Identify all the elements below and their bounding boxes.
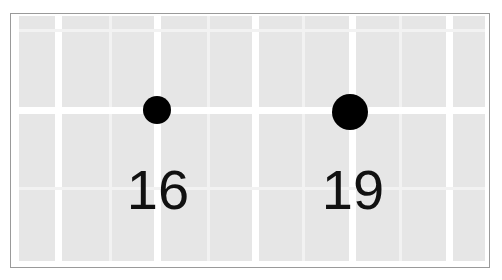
grid-major-h	[19, 107, 485, 114]
grid-major-v	[55, 16, 62, 261]
grid-minor-v	[399, 16, 402, 261]
grid-minor-h	[19, 187, 485, 190]
grid-major-v	[154, 16, 161, 261]
grid-major-v	[446, 16, 453, 261]
data-point	[332, 94, 368, 130]
grid-minor-v	[207, 16, 210, 261]
grid-minor-h	[19, 29, 485, 32]
data-point	[143, 96, 171, 124]
grid-minor-v	[302, 16, 305, 261]
point-label: 19	[322, 162, 384, 218]
grid-minor-v	[109, 16, 112, 261]
grid-major-v	[252, 16, 259, 261]
plot-panel	[19, 16, 485, 261]
point-label: 16	[127, 162, 189, 218]
grid-major-v	[349, 16, 356, 261]
